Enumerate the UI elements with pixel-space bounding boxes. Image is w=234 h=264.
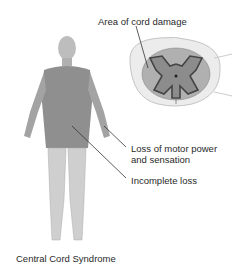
label-incomplete-loss: Incomplete loss	[131, 175, 197, 186]
label-cord-damage: Area of cord damage	[98, 16, 187, 27]
label-motor-loss-2: and sensation	[131, 154, 190, 165]
human-figure	[24, 36, 110, 240]
label-motor-loss-1: Loss of motor power	[131, 143, 217, 154]
figure-caption: Central Cord Syndrome	[16, 253, 116, 264]
spinal-cord-cross-section	[130, 37, 232, 106]
